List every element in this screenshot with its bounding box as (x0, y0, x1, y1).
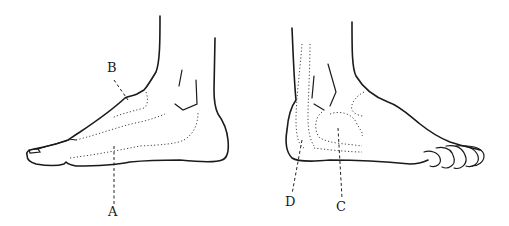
label-b: B (107, 61, 117, 74)
label-a: A (108, 205, 117, 218)
label-d: D (285, 195, 295, 208)
foot-illustration (0, 0, 509, 226)
right-foot (286, 22, 484, 198)
label-c: C (336, 200, 346, 213)
left-foot (27, 16, 229, 204)
foot-diagram: B A D C (0, 0, 509, 226)
